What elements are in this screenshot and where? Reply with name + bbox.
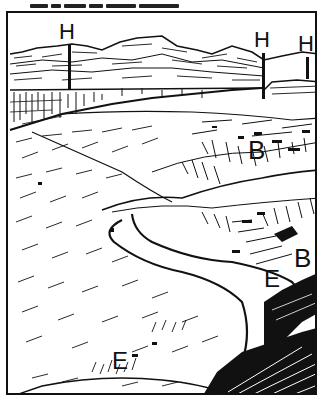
label-b-lower: B <box>294 245 311 271</box>
h2-leader-line <box>262 53 265 99</box>
cropped-caption-fragment <box>30 0 220 4</box>
label-h-left: H <box>59 21 75 43</box>
h1-leader-line <box>68 45 71 89</box>
label-h-right: H <box>298 33 314 55</box>
dark-rock-outcrop <box>202 272 317 395</box>
label-e-floodplain: E <box>112 349 128 373</box>
h3-leader-line <box>306 57 309 79</box>
label-e-river: E <box>264 267 280 291</box>
landscape-sketch <box>8 13 317 395</box>
label-h-middle: H <box>254 29 270 51</box>
illustration-frame: H H H B B E E <box>6 11 317 395</box>
distant-mountains <box>10 36 317 76</box>
label-b-upper: B <box>248 137 265 163</box>
